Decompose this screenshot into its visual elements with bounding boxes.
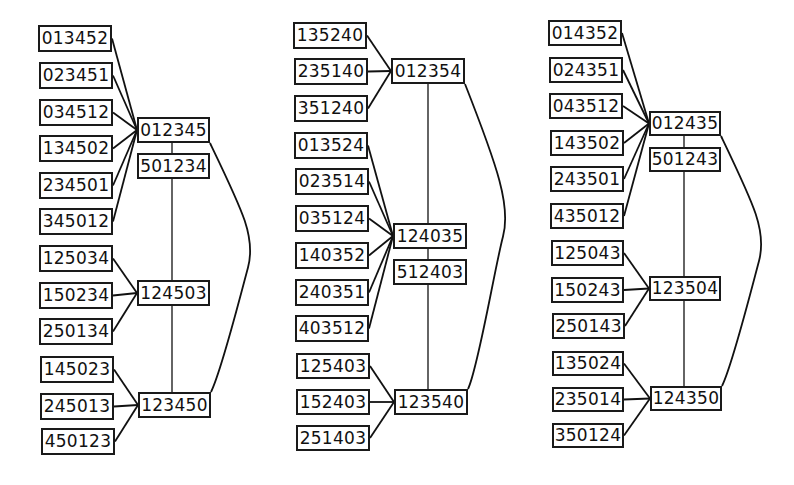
leaf-node: 235140 bbox=[294, 58, 368, 85]
leaf-edge bbox=[367, 36, 391, 72]
leaf-node: 450123 bbox=[41, 428, 115, 455]
leaf-edge bbox=[368, 71, 391, 72]
leaf-edge bbox=[113, 293, 137, 332]
leaf-node: 345012 bbox=[39, 208, 113, 235]
diagram-canvas: 0123455012341245031234500134520234510345… bbox=[0, 0, 794, 485]
arc-edge bbox=[721, 136, 761, 386]
leaf-node: 235014 bbox=[552, 387, 624, 412]
leaf-node: 034512 bbox=[39, 99, 113, 126]
leaf-node: 135024 bbox=[552, 351, 624, 376]
leaf-node: 250143 bbox=[552, 313, 625, 339]
hub-node: 512403 bbox=[393, 259, 467, 285]
arc-edge bbox=[465, 84, 505, 389]
leaf-node: 150234 bbox=[39, 282, 113, 309]
leaf-node: 243501 bbox=[550, 166, 624, 192]
leaf-node: 435012 bbox=[550, 203, 624, 229]
leaf-node: 013452 bbox=[38, 25, 112, 52]
leaf-node: 024351 bbox=[549, 57, 623, 83]
leaf-edge bbox=[624, 364, 650, 399]
hub-node: 501234 bbox=[137, 153, 210, 179]
leaf-node: 251403 bbox=[296, 425, 370, 451]
hub-node: 123450 bbox=[138, 392, 211, 418]
hub-node: 124350 bbox=[650, 386, 722, 411]
leaf-node: 013524 bbox=[294, 132, 368, 159]
leaf-node: 143502 bbox=[550, 130, 624, 156]
leaf-node: 043512 bbox=[549, 93, 623, 119]
hub-node: 501243 bbox=[649, 147, 721, 172]
leaf-edge bbox=[114, 370, 138, 406]
leaf-edge bbox=[368, 146, 393, 237]
leaf-edge bbox=[624, 289, 649, 291]
leaf-node: 135240 bbox=[293, 22, 367, 49]
hub-node: 012354 bbox=[391, 58, 465, 84]
leaf-edge bbox=[115, 405, 138, 442]
hub-node: 012435 bbox=[649, 111, 721, 136]
hub-node: 012345 bbox=[137, 117, 210, 143]
leaf-node: 245013 bbox=[40, 393, 114, 420]
leaf-edge bbox=[368, 71, 391, 109]
leaf-edge bbox=[370, 366, 394, 402]
leaf-node: 125034 bbox=[39, 245, 113, 272]
leaf-node: 403512 bbox=[295, 315, 369, 342]
leaf-node: 351240 bbox=[294, 95, 368, 122]
leaf-node: 125403 bbox=[296, 353, 370, 379]
leaf-edge bbox=[624, 253, 649, 289]
arc-edge bbox=[210, 143, 250, 392]
leaf-node: 023514 bbox=[295, 168, 369, 195]
leaf-node: 350124 bbox=[552, 423, 624, 448]
leaf-node: 035124 bbox=[295, 205, 369, 232]
leaf-edge bbox=[370, 402, 394, 438]
leaf-node: 140352 bbox=[295, 242, 369, 269]
leaf-node: 152403 bbox=[296, 389, 370, 415]
hub-node: 123504 bbox=[649, 276, 721, 301]
hub-node: 124503 bbox=[137, 280, 210, 306]
hub-node: 124035 bbox=[393, 223, 467, 249]
leaf-node: 014352 bbox=[548, 20, 622, 46]
leaf-edge bbox=[113, 259, 137, 294]
leaf-node: 125043 bbox=[551, 240, 624, 266]
leaf-node: 150243 bbox=[551, 277, 624, 303]
leaf-node: 240351 bbox=[295, 279, 369, 306]
leaf-edge bbox=[624, 399, 650, 436]
leaf-node: 145023 bbox=[40, 356, 114, 383]
leaf-edge bbox=[114, 405, 138, 407]
hub-node: 123540 bbox=[394, 389, 468, 415]
leaf-edge bbox=[113, 293, 137, 296]
leaf-node: 234501 bbox=[39, 172, 113, 199]
leaf-node: 023451 bbox=[39, 62, 113, 89]
leaf-edge bbox=[624, 399, 650, 400]
leaf-edge bbox=[625, 289, 649, 327]
leaf-node: 134502 bbox=[39, 135, 113, 162]
leaf-node: 250134 bbox=[39, 318, 113, 345]
leaf-edge bbox=[112, 39, 137, 131]
